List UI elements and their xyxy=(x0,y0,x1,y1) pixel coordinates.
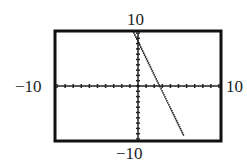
graph-window xyxy=(0,0,247,162)
